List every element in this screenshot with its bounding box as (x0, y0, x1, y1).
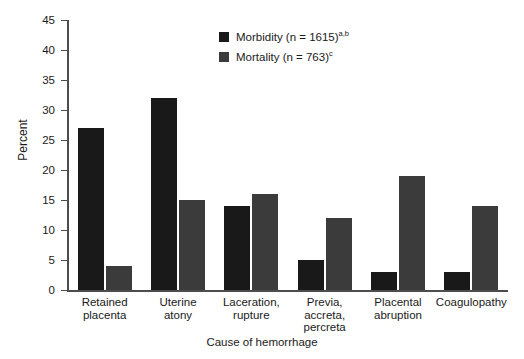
bar (252, 194, 278, 290)
legend-swatch-icon (219, 32, 229, 42)
chart-legend: Morbidity (n = 1615)a,bMortality (n = 76… (219, 27, 349, 67)
y-axis-title: Percent (16, 95, 30, 185)
y-axis-tick (61, 140, 67, 141)
bar (399, 176, 425, 290)
bar (326, 218, 352, 290)
bar (371, 272, 397, 290)
x-axis-title: Cause of hemorrhage (0, 336, 524, 348)
legend-footnote-marker: a,b (339, 29, 349, 38)
bar-chart: 051015202530354045 Percent Retained plac… (0, 0, 524, 359)
y-axis-tick (61, 260, 67, 261)
bar (106, 266, 132, 290)
y-axis-tick-label: 15 (11, 194, 55, 206)
legend-series-name: Morbidity (n = 1615) (236, 31, 339, 43)
y-axis-tick (61, 230, 67, 231)
bar (224, 206, 250, 290)
y-axis-tick-label: 0 (11, 284, 55, 296)
bar (179, 200, 205, 290)
y-axis-tick-label: 10 (11, 224, 55, 236)
bar (472, 206, 498, 290)
y-axis-tick (61, 80, 67, 81)
legend-label: Mortality (n = 763)c (236, 51, 333, 63)
y-axis-tick-label: 45 (11, 14, 55, 26)
legend-item[interactable]: Morbidity (n = 1615)a,b (219, 27, 349, 47)
legend-item[interactable]: Mortality (n = 763)c (219, 47, 349, 67)
y-axis-tick (61, 50, 67, 51)
y-axis-tick-label: 35 (11, 74, 55, 86)
x-axis-category-label: Coagulopathy (426, 296, 516, 309)
legend-footnote-marker: c (329, 49, 333, 58)
bar (151, 98, 177, 290)
y-axis-tick-label: 40 (11, 44, 55, 56)
y-axis-tick (61, 290, 67, 291)
legend-series-name: Mortality (n = 763) (236, 51, 329, 63)
bar (444, 272, 470, 290)
y-axis-tick (61, 20, 67, 21)
x-axis-line (67, 290, 508, 292)
y-axis-tick (61, 200, 67, 201)
legend-swatch-icon (219, 52, 229, 62)
y-axis-tick (61, 110, 67, 111)
legend-label: Morbidity (n = 1615)a,b (236, 31, 349, 43)
y-axis-tick (61, 170, 67, 171)
bar (298, 260, 324, 290)
y-axis-tick-label: 5 (11, 254, 55, 266)
bar (78, 128, 104, 290)
